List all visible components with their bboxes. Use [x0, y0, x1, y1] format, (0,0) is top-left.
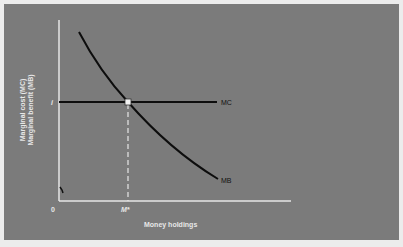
mc-label: MC — [221, 99, 232, 106]
equilibrium-point — [125, 99, 131, 105]
mb-label: MB — [221, 177, 232, 184]
mb-curve — [79, 32, 218, 179]
y-tick-i: i — [51, 99, 54, 106]
y-axis-title-line1: Marginal cost (MC) — [19, 79, 27, 142]
x-axis-title: Money holdings — [144, 221, 197, 229]
origin-mark — [60, 187, 63, 193]
marginal-cost-benefit-chart: MC MB i 0 M* Money holdings Marginal cos… — [0, 0, 403, 247]
x-tick-origin: 0 — [51, 206, 55, 213]
y-axis-title-line2: Marginal benefit (MB) — [27, 74, 35, 145]
x-tick-mstar: M* — [121, 206, 130, 213]
